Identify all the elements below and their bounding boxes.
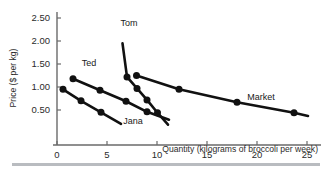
broccoli-demand-chart-figure: 0.501.001.502.002.50 0510152025 TomTedJa… xyxy=(0,0,332,171)
x-axis-title: Quantity (kilograms of broccoli per week… xyxy=(162,144,318,154)
series-label-tom: Tom xyxy=(120,18,137,28)
axes xyxy=(53,12,321,145)
data-point-ted xyxy=(144,108,151,115)
data-point-tom xyxy=(144,96,151,103)
data-point-tom xyxy=(134,85,141,92)
series-label-market: Market xyxy=(247,92,275,102)
footer-divider xyxy=(12,163,320,166)
data-point-market xyxy=(291,109,298,116)
axis-lines xyxy=(53,12,321,145)
data-point-ted xyxy=(123,98,130,105)
data-point-jana xyxy=(60,86,67,93)
series-line-market xyxy=(137,76,309,116)
data-series xyxy=(60,43,309,124)
y-tick-label: 1.50 xyxy=(32,58,51,69)
data-point-ted xyxy=(70,75,77,82)
y-axis-tick-labels: 0.501.001.502.002.50 xyxy=(32,12,51,115)
series-label-jana: Jana xyxy=(123,116,143,126)
data-point-market xyxy=(133,72,140,79)
data-point-market xyxy=(176,86,183,93)
y-tick-label: 2.00 xyxy=(32,35,51,46)
series-label-ted: Ted xyxy=(82,58,97,68)
series-line-ted xyxy=(73,79,169,120)
data-point-jana xyxy=(78,97,85,104)
axis-ticks xyxy=(57,18,307,145)
data-point-tom xyxy=(124,73,131,80)
y-tick-label: 1.00 xyxy=(32,81,51,92)
y-axis-title: Price ($ per kg) xyxy=(8,48,18,107)
x-tick-label: 10 xyxy=(152,149,163,160)
data-point-jana xyxy=(98,109,105,116)
y-tick-label: 0.50 xyxy=(32,104,51,115)
x-tick-label: 0 xyxy=(54,149,59,160)
data-point-ted xyxy=(97,87,104,94)
data-point-market xyxy=(234,99,241,106)
series-labels: TomTedJanaMarket xyxy=(82,18,276,126)
chart-canvas: 0.501.001.502.002.50 0510152025 TomTedJa… xyxy=(0,0,332,171)
y-tick-label: 2.50 xyxy=(32,12,51,23)
x-tick-label: 5 xyxy=(104,149,109,160)
